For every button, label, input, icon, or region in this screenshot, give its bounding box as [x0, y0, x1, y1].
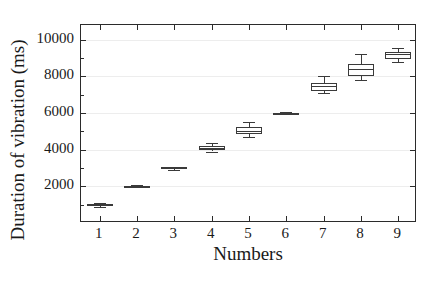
- y-axis-tick-label: 8000: [18, 67, 74, 82]
- plot-area: [80, 24, 416, 222]
- boxplot-box: [81, 25, 415, 221]
- x-axis-tick-label: 9: [382, 226, 412, 241]
- y-axis-tick-label: 6000: [18, 104, 74, 119]
- y-axis-tick-label: 4000: [18, 141, 74, 156]
- x-axis-title: Numbers: [80, 243, 416, 265]
- y-axis-tick-label: 10000: [18, 31, 74, 46]
- x-axis-tick-label: 5: [233, 226, 263, 241]
- x-axis-tick-label: 2: [121, 226, 151, 241]
- boxplot-figure: Duration of vibration (ms) Numbers 20004…: [0, 0, 440, 282]
- x-axis-tick-label: 4: [196, 226, 226, 241]
- whisker-cap-lower: [392, 62, 404, 63]
- median-line: [385, 54, 411, 55]
- x-axis-tick-label: 3: [158, 226, 188, 241]
- x-axis-tick-label: 6: [270, 226, 300, 241]
- whisker-cap-upper: [392, 48, 404, 49]
- box-iqr: [385, 52, 411, 59]
- x-axis-tick-label: 8: [345, 226, 375, 241]
- x-axis-tick-label: 7: [308, 226, 338, 241]
- x-axis-tick-label: 1: [84, 226, 114, 241]
- y-axis-tick-label: 2000: [18, 177, 74, 192]
